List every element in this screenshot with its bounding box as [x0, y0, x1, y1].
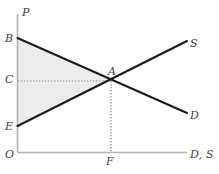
- origin-label: O: [5, 149, 14, 160]
- quantity-axis-label: D, S: [190, 149, 214, 160]
- figure-canvas: [0, 0, 219, 174]
- price-mark-label-b: B: [5, 33, 13, 44]
- price-axis-label: P: [22, 7, 30, 18]
- price-mark-label-e: E: [5, 121, 13, 132]
- equilibrium-point-label-a: A: [108, 66, 116, 77]
- price-mark-label-c: C: [5, 74, 14, 85]
- supply-curve-label: S: [190, 38, 198, 49]
- surplus-triangle-shading: [18, 38, 112, 126]
- supply-demand-figure: P B C E O A F S D D, S: [0, 0, 219, 174]
- demand-curve-label: D: [190, 110, 199, 121]
- quantity-mark-label-f: F: [106, 156, 114, 167]
